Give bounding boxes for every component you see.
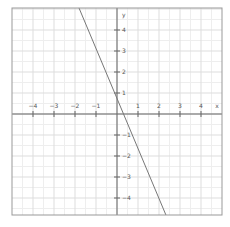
chart-canvas: −4−3−2−112344321−1−2−3−4 x y xyxy=(0,0,230,227)
x-tick-label: −3 xyxy=(50,102,59,109)
y-tick-label: −3 xyxy=(122,173,131,180)
x-tick-label: 2 xyxy=(157,102,161,109)
x-tick-label: 3 xyxy=(178,102,182,109)
y-tick-label: 3 xyxy=(122,47,126,54)
y-tick-label: 2 xyxy=(122,68,126,75)
y-tick-label: 1 xyxy=(122,89,126,96)
x-tick-label: −4 xyxy=(29,102,38,109)
x-tick-label: −1 xyxy=(92,102,101,109)
x-axis-label: x xyxy=(215,102,219,109)
x-tick-label: −2 xyxy=(71,102,80,109)
y-tick-label: 4 xyxy=(122,26,126,33)
x-tick-label: 1 xyxy=(136,102,140,109)
y-tick-label: −1 xyxy=(122,131,131,138)
y-tick-label: −2 xyxy=(122,152,131,159)
data-line xyxy=(79,8,166,215)
data-series xyxy=(79,8,166,215)
y-axis-label: y xyxy=(122,11,126,19)
y-tick-label: −4 xyxy=(122,194,131,201)
x-tick-label: 4 xyxy=(199,102,203,109)
